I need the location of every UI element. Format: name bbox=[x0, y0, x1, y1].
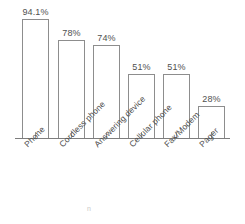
bar-group[interactable]: 28% bbox=[198, 12, 225, 138]
bar[interactable] bbox=[22, 19, 49, 138]
bar-chart: 94.1% 78% 74% 51% 51% 28% bbox=[0, 0, 245, 224]
bar-value-label: 78% bbox=[62, 28, 80, 38]
page-artifact-mark: n bbox=[87, 205, 91, 212]
bar-value-label: 74% bbox=[97, 33, 115, 43]
x-axis-labels: Phone Cordless phone Answering device Ce… bbox=[0, 140, 245, 224]
bar-value-label: 94.1% bbox=[22, 7, 48, 17]
bar-value-label: 51% bbox=[167, 62, 185, 72]
bar-value-label: 28% bbox=[202, 94, 220, 104]
bar-group[interactable]: 94.1% bbox=[22, 12, 49, 138]
x-axis-line bbox=[15, 138, 230, 139]
bar-value-label: 51% bbox=[132, 62, 150, 72]
